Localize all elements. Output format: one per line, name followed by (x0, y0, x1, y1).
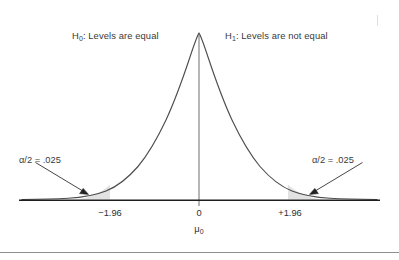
right-alpha-arrow (310, 163, 363, 195)
null-hypothesis-symbol: H (72, 30, 79, 41)
left-alpha-label: α/2 = .025 (19, 155, 61, 165)
distribution-plot (0, 0, 399, 260)
alternative-hypothesis-symbol: H (225, 30, 232, 41)
tick-label-positive-critical: +1.96 (278, 208, 302, 218)
right-alpha-label: α/2 = .025 (312, 155, 354, 165)
alternative-hypothesis-subscript: 1 (232, 35, 236, 42)
mu-subscript: 0 (200, 228, 204, 235)
alternative-hypothesis-text: : Levels are not equal (236, 30, 328, 41)
figure-container: H0: Levels are equal H1: Levels are not … (0, 0, 399, 260)
null-hypothesis-label: H0: Levels are equal (72, 31, 159, 40)
null-hypothesis-text: : Levels are equal (83, 30, 159, 41)
alternative-hypothesis-label: H1: Levels are not equal (225, 31, 328, 40)
tick-label-zero: 0 (196, 208, 201, 218)
left-alpha-arrow (36, 163, 89, 195)
tick-label-negative-critical: −1.96 (98, 208, 122, 218)
mu-zero-label: μ0 (194, 224, 203, 234)
scan-artifact-mark (377, 15, 378, 26)
null-hypothesis-subscript: 0 (79, 35, 83, 42)
